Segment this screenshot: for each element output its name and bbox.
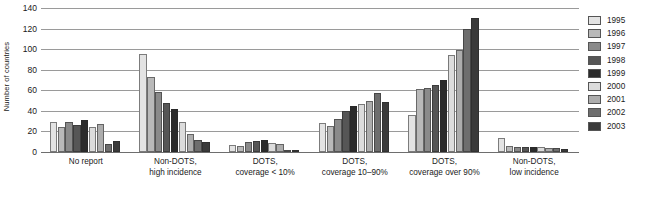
y-axis-title-text: Number of countries: [3, 41, 12, 110]
x-label-line-1: Non-DOTS,: [513, 157, 556, 166]
x-axis-category-labels: No reportNon-DOTS,high incidenceDOTS,cov…: [41, 156, 579, 196]
legend-label-1998: 1998: [607, 56, 625, 65]
bar-1997-group-5: [424, 88, 431, 152]
x-label-group-1: No report: [41, 156, 131, 167]
bar-1997-group-3: [245, 142, 252, 152]
bar-2001-group-5: [456, 50, 463, 152]
y-tick-label-140: 140: [23, 3, 37, 13]
legend-item-1997[interactable]: 1997: [588, 40, 650, 53]
legend-item-2001[interactable]: 2001: [588, 93, 650, 106]
legend-swatch-2001: [588, 95, 601, 104]
legend-item-2002[interactable]: 2002: [588, 106, 650, 119]
bar-1998-group-5: [432, 85, 439, 152]
legend-item-1998[interactable]: 1998: [588, 54, 650, 67]
legend-label-2001: 2001: [607, 95, 625, 104]
bar-2002-group-6: [553, 148, 560, 152]
x-label-line-1: DOTS,: [253, 157, 278, 166]
bar-1999-group-4: [350, 106, 357, 152]
legend-label-2000: 2000: [607, 82, 625, 91]
x-label-group-2: Non-DOTS,high incidence: [131, 156, 221, 178]
bar-2000-group-4: [358, 104, 365, 152]
bar-1996-group-2: [147, 77, 154, 152]
bar-2002-group-1: [105, 144, 112, 152]
bar-2000-group-6: [537, 147, 544, 152]
bar-2003-group-5: [471, 18, 478, 152]
bar-1997-group-6: [514, 147, 521, 152]
legend-swatch-2003: [588, 122, 601, 131]
bar-1998-group-3: [253, 141, 260, 152]
y-tick-label-80: 80: [28, 65, 37, 75]
legend-item-1999[interactable]: 1999: [588, 67, 650, 80]
bar-2001-group-4: [366, 101, 373, 152]
bar-1998-group-4: [342, 111, 349, 152]
bar-2003-group-6: [561, 149, 568, 152]
bar-2000-group-1: [89, 127, 96, 152]
bar-2001-group-3: [276, 144, 283, 152]
legend-swatch-2000: [588, 82, 601, 91]
bar-2003-group-1: [113, 141, 120, 152]
bar-1998-group-1: [73, 125, 80, 152]
bar-2001-group-2: [187, 134, 194, 153]
bar-1995-group-3: [229, 145, 236, 152]
legend-item-2003[interactable]: 2003: [588, 120, 650, 133]
legend-item-2000[interactable]: 2000: [588, 80, 650, 93]
bar-series-container: [41, 8, 579, 152]
bar-2002-group-5: [463, 29, 470, 152]
bar-2003-group-2: [202, 142, 209, 152]
legend-item-1996[interactable]: 1996: [588, 27, 650, 40]
bar-2003-group-4: [382, 102, 389, 152]
y-axis-title: Number of countries: [0, 0, 14, 152]
bar-2002-group-2: [194, 140, 201, 152]
bar-2002-group-4: [374, 93, 381, 152]
bar-1997-group-2: [155, 92, 162, 152]
bar-2000-group-3: [268, 143, 275, 152]
x-label-line-2: low incidence: [489, 167, 579, 178]
x-label-group-3: DOTS,coverage < 10%: [220, 156, 310, 178]
legend-swatch-1995: [588, 16, 601, 25]
bar-chart: Number of countries 020406080100120140 N…: [0, 0, 654, 197]
legend-label-1999: 1999: [607, 69, 625, 78]
y-tick-label-100: 100: [23, 44, 37, 54]
x-label-group-5: DOTS,coverage over 90%: [400, 156, 490, 178]
x-label-line-1: Non-DOTS,: [154, 157, 197, 166]
bar-1995-group-2: [139, 54, 146, 152]
bar-1999-group-2: [171, 109, 178, 152]
y-tick-label-120: 120: [23, 24, 37, 34]
bar-1998-group-2: [163, 103, 170, 152]
x-label-line-2: coverage over 90%: [400, 167, 490, 178]
y-tick-label-20: 20: [28, 126, 37, 136]
y-tick-label-0: 0: [32, 147, 37, 157]
legend-item-1995[interactable]: 1995: [588, 14, 650, 27]
bar-2000-group-2: [179, 122, 186, 152]
bar-1996-group-6: [506, 146, 513, 152]
x-label-line-2: coverage 10–90%: [310, 167, 400, 178]
legend-label-1995: 1995: [607, 16, 625, 25]
legend-swatch-1996: [588, 29, 601, 38]
bar-1997-group-1: [65, 122, 72, 152]
bar-2002-group-3: [284, 150, 291, 152]
legend-label-1996: 1996: [607, 29, 625, 38]
bar-2003-group-3: [292, 150, 299, 152]
legend-label-2002: 2002: [607, 108, 625, 117]
bar-1999-group-3: [261, 140, 268, 152]
legend-swatch-1998: [588, 56, 601, 65]
x-label-group-4: DOTS,coverage 10–90%: [310, 156, 400, 178]
x-label-line-1: DOTS,: [342, 157, 367, 166]
gridline-0: [41, 152, 579, 153]
y-tick-label-40: 40: [28, 106, 37, 116]
x-label-group-6: Non-DOTS,low incidence: [489, 156, 579, 178]
x-label-line-2: high incidence: [131, 167, 221, 178]
bar-1998-group-6: [522, 147, 529, 152]
plot-area: [41, 8, 579, 152]
legend-swatch-1997: [588, 42, 601, 51]
bar-2001-group-1: [97, 124, 104, 152]
bar-1995-group-5: [408, 115, 415, 152]
bar-1999-group-5: [440, 80, 447, 152]
y-tick-label-60: 60: [28, 85, 37, 95]
bar-2000-group-5: [448, 55, 455, 152]
bar-1995-group-6: [498, 138, 505, 152]
bar-1996-group-3: [237, 146, 244, 152]
bar-1997-group-4: [334, 119, 341, 152]
y-axis-tick-labels: 020406080100120140: [14, 0, 40, 160]
bar-1996-group-1: [58, 127, 65, 152]
